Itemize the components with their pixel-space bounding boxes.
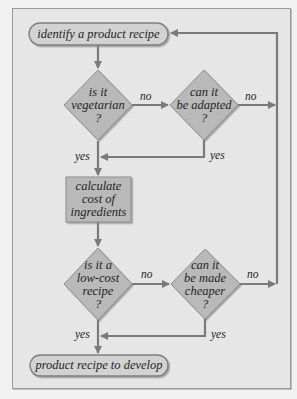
edge-label-adapted-yes: yes (210, 149, 225, 161)
process-calc-cost-label: calculate cost of ingredients (66, 180, 131, 219)
edge-label-low-cost-yes: yes (75, 328, 90, 340)
decision-vegetarian-line-3: ? (62, 112, 134, 125)
decision-cheaper-label: can it be made cheaper ? (169, 259, 241, 311)
decision-vegetarian-label: is it vegetarian ? (62, 86, 134, 125)
edge-label-cheaper-yes: yes (211, 328, 226, 340)
edge-label-low-cost-no: no (141, 268, 153, 280)
decision-adapted-label: can it be adapted ? (166, 86, 242, 125)
decision-low-cost-line-4: ? (62, 298, 134, 311)
edge-label-adapted-no: no (245, 90, 257, 102)
flowchart-connectors (0, 0, 297, 399)
edge-label-vegetarian-no: no (140, 90, 152, 102)
decision-low-cost-label: is it a low-cost recipe ? (62, 259, 134, 311)
process-calc-cost-line-3: ingredients (66, 206, 131, 219)
start-terminal-label: identify a product recipe (29, 28, 168, 41)
decision-cheaper-line-4: ? (169, 298, 241, 311)
decision-adapted-line-3: ? (166, 112, 242, 125)
edge-label-vegetarian-yes: yes (75, 150, 90, 162)
end-terminal-label: product recipe to develop (30, 359, 168, 372)
edge-label-cheaper-no: no (247, 268, 259, 280)
